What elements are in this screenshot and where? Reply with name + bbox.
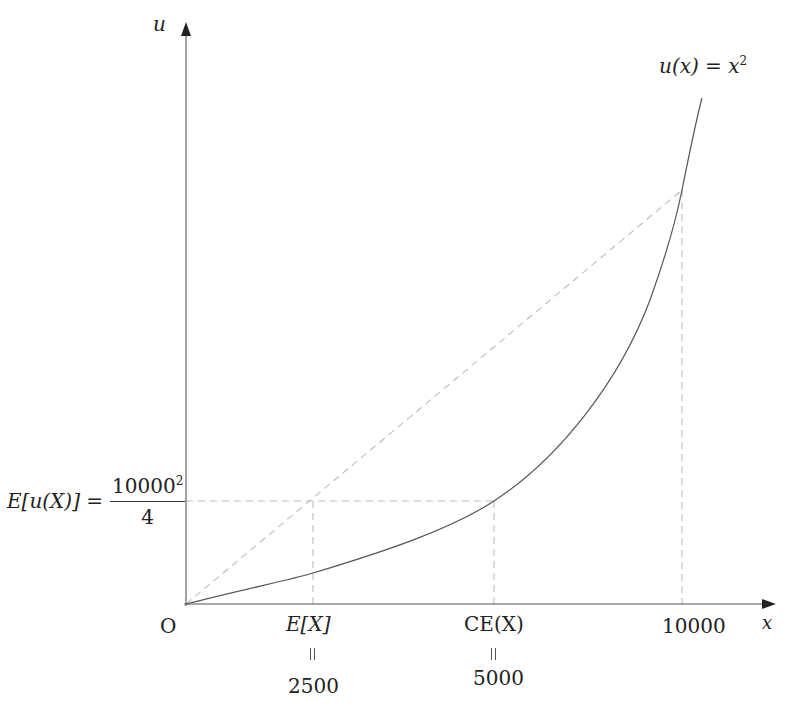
fraction-bar (110, 501, 185, 502)
ex-equals-icon (310, 648, 315, 660)
eu-numerator: 100002 (110, 474, 185, 498)
origin-label: O (160, 614, 176, 638)
y-axis-label: u (153, 12, 166, 36)
eu-fraction: 100002 4 (110, 474, 185, 529)
utility-diagram: u x O u(x) = x2 E[u(X)] = 100002 4 E[X] … (0, 0, 795, 705)
eu-numerator-exp: 2 (176, 474, 184, 488)
y-axis-arrow-icon (181, 22, 191, 36)
eu-denominator: 4 (141, 505, 154, 529)
ce-label: CE(X) (464, 612, 524, 636)
ex-label: E[X] (286, 612, 330, 636)
ex-value: 2500 (288, 674, 339, 698)
plot-canvas (0, 0, 795, 705)
curve-label: u(x) = x2 (659, 54, 747, 78)
ce-equals-icon (491, 648, 496, 660)
curve-label-exponent: 2 (740, 54, 748, 68)
x10000-label: 10000 (662, 614, 726, 638)
x-axis-label: x (762, 612, 772, 633)
eu-label-lhs: E[u(X)] = (7, 489, 103, 513)
ce-value: 5000 (473, 666, 524, 690)
chord-line (186, 190, 682, 604)
x-axis-arrow-icon (762, 599, 776, 609)
eu-lhs-text: E[u(X)] = (7, 489, 103, 513)
curve-label-text: u(x) = x (659, 54, 740, 78)
utility-curve (186, 98, 702, 604)
eu-numerator-text: 10000 (112, 474, 176, 498)
